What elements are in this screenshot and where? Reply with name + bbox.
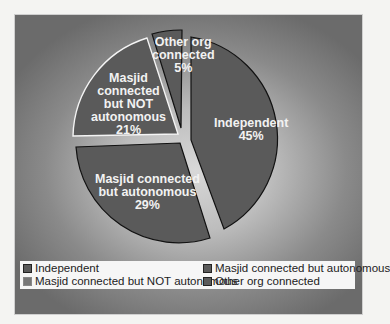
legend-swatch-icon: [23, 264, 32, 273]
label-value: 45%: [214, 130, 288, 143]
label-value: 21%: [91, 124, 166, 137]
legend-label: Independent: [35, 262, 99, 274]
legend-swatch-icon: [203, 277, 212, 286]
legend-item-other-org: Other org connected: [203, 275, 320, 287]
legend-label: Masjid connected but autonomous: [215, 262, 390, 274]
legend-swatch-icon: [23, 277, 32, 286]
legend-label: Other org connected: [215, 275, 320, 287]
label-value: 5%: [152, 62, 215, 75]
legend-item-masjid-autonomous: Masjid connected but autonomous: [203, 262, 390, 274]
label-other-org: Other org connected 5%: [152, 36, 215, 75]
label-independent: Independent 45%: [214, 117, 288, 143]
chart-legend: Independent Masjid connected but autonom…: [20, 261, 355, 289]
label-value: 29%: [95, 199, 200, 212]
legend-item-independent: Independent: [23, 262, 99, 274]
label-masjid-autonomous: Masjid connected but autonomous 29%: [95, 173, 200, 212]
label-masjid-not-autonomous: Masjid connected but NOT autonomous 21%: [91, 72, 166, 137]
legend-swatch-icon: [203, 264, 212, 273]
